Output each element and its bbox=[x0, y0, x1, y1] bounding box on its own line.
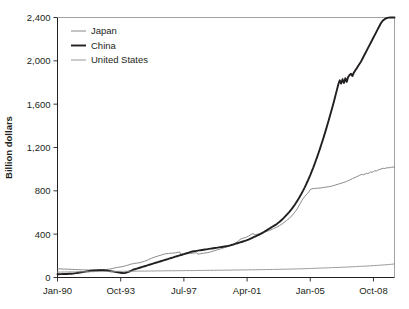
x-tick-label: Jul-97 bbox=[171, 285, 197, 296]
x-tick-label: Jan-90 bbox=[43, 285, 72, 296]
legend-label-china: China bbox=[91, 40, 117, 51]
y-tick-label: 2,400 bbox=[27, 12, 51, 23]
y-tick-label: 1,600 bbox=[27, 99, 51, 110]
y-tick-label: 2,000 bbox=[27, 55, 51, 66]
foreign-reserves-line-chart: Billion dollars 04008001,2001,6002,0002,… bbox=[0, 0, 409, 309]
y-tick-label: 800 bbox=[35, 185, 51, 196]
x-tick-label: Oct-08 bbox=[359, 285, 388, 296]
y-tick-label: 0 bbox=[45, 272, 50, 283]
y-tick-label: 1,200 bbox=[27, 142, 51, 153]
legend-label-japan: Japan bbox=[91, 25, 117, 36]
y-axis-title: Billion dollars bbox=[3, 116, 14, 179]
legend-label-united-states: United States bbox=[91, 54, 148, 65]
x-tick-label: Jan-05 bbox=[296, 285, 325, 296]
y-axis-title-text: Billion dollars bbox=[3, 116, 14, 179]
y-tick-label: 400 bbox=[35, 229, 51, 240]
x-tick-label: Oct-93 bbox=[106, 285, 135, 296]
chart-container: Billion dollars 04008001,2001,6002,0002,… bbox=[0, 0, 409, 309]
chart-background bbox=[0, 0, 409, 309]
x-tick-label: Apr-01 bbox=[233, 285, 262, 296]
